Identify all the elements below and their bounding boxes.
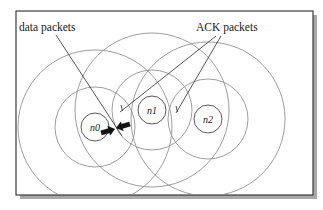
callout-label-ack-packets: ACK packets [196,21,258,34]
network-diagram: n0 n1 n2 data packets ACK packets [0,0,323,210]
callout-label-data-packets: data packets [19,21,76,34]
node-label-n1: n1 [147,105,157,116]
node-label-n2: n2 [203,114,213,125]
node-label-n0: n0 [90,122,100,133]
figure-container: n0 n1 n2 data packets ACK packets [0,0,323,210]
